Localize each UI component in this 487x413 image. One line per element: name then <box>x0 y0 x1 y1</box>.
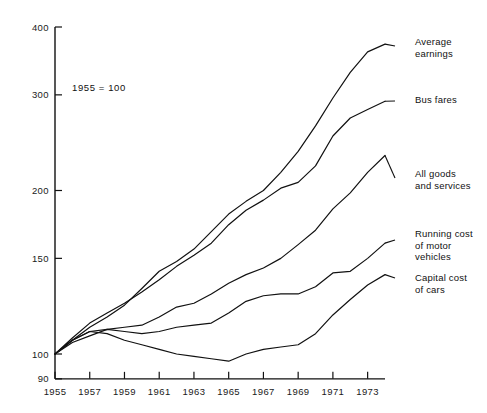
leader-line-3 <box>385 240 395 243</box>
y-tick-label: 150 <box>32 253 49 264</box>
leader-lines-group <box>385 44 395 278</box>
x-tick-label: 1955 <box>44 386 67 397</box>
series-label-line: Running cost <box>415 228 473 240</box>
cropped-title <box>95 0 395 6</box>
leader-line-2 <box>385 155 395 178</box>
x-tick-label: 1965 <box>217 386 240 397</box>
y-tick-label: 400 <box>32 22 49 33</box>
series-label-line: and services <box>415 180 471 192</box>
series-label-line: earnings <box>415 48 453 60</box>
axes-group <box>55 27 385 379</box>
chart-figure: 1955 = 100 90100150200300400195519571959… <box>0 0 487 413</box>
series-label-3: Running costof motorvehicles <box>415 228 473 263</box>
series-label-line: Capital cost <box>415 272 467 284</box>
leader-line-4 <box>385 275 395 278</box>
y-tick-label: 300 <box>32 89 49 100</box>
series-label-line: Average <box>415 36 453 48</box>
x-tick-label: 1957 <box>78 386 101 397</box>
series-label-1: Bus fares <box>415 94 457 106</box>
series-line-1 <box>55 101 385 354</box>
series-line-2 <box>55 155 385 354</box>
x-tick-label: 1969 <box>287 386 310 397</box>
series-label-line: of cars <box>415 284 467 296</box>
x-tick-label: 1973 <box>356 386 379 397</box>
y-tick-label: 100 <box>32 349 49 360</box>
series-label-line: Bus fares <box>415 94 457 106</box>
y-tick-label: 90 <box>38 373 49 384</box>
x-tick-label: 1971 <box>322 386 345 397</box>
tick-labels-group: 9010015020030040019551957195919611963196… <box>32 22 379 397</box>
series-line-3 <box>55 243 385 354</box>
y-tick-label: 200 <box>32 185 49 196</box>
leader-line-0 <box>385 44 395 46</box>
series-label-2: All goodsand services <box>415 168 471 191</box>
series-label-line: vehicles <box>415 251 473 263</box>
x-tick-label: 1959 <box>113 386 136 397</box>
base-index-note: 1955 = 100 <box>72 82 126 93</box>
series-label-line: All goods <box>415 168 471 180</box>
chart-canvas: 9010015020030040019551957195919611963196… <box>0 0 487 413</box>
x-tick-label: 1963 <box>183 386 206 397</box>
series-label-4: Capital costof cars <box>415 272 467 295</box>
x-tick-label: 1961 <box>148 386 171 397</box>
series-label-0: Averageearnings <box>415 36 453 59</box>
series-label-line: of motor <box>415 240 473 252</box>
x-tick-label: 1967 <box>252 386 275 397</box>
